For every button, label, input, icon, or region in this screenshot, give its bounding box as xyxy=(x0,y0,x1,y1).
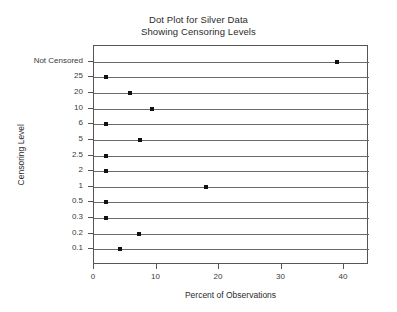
data-point xyxy=(137,232,141,236)
row-rule xyxy=(94,140,369,141)
row-rule xyxy=(94,249,369,250)
y-axis-tick xyxy=(88,139,93,140)
x-axis-tick-label: 10 xyxy=(151,272,160,281)
row-rule xyxy=(94,77,369,78)
data-point xyxy=(128,91,132,95)
x-axis-tick xyxy=(156,264,157,269)
row-rule xyxy=(94,109,369,110)
y-axis-tick-label: 2.5 xyxy=(72,151,83,159)
x-axis-title: Percent of Observations xyxy=(93,290,368,300)
dot-plot-chart: Dot Plot for Silver Data Showing Censori… xyxy=(0,0,397,312)
y-axis-title: Censoring Level xyxy=(16,124,26,185)
row-rule xyxy=(94,218,369,219)
data-point xyxy=(104,216,108,220)
chart-title-line1: Dot Plot for Silver Data xyxy=(149,14,248,25)
y-axis-tick xyxy=(88,61,93,62)
y-axis-tick-label: 0.3 xyxy=(72,213,83,221)
row-rule xyxy=(94,124,369,125)
plot-area xyxy=(93,45,368,264)
y-axis-tick-label: 1 xyxy=(79,182,83,190)
y-axis-tick xyxy=(88,155,93,156)
data-point xyxy=(104,75,108,79)
data-point xyxy=(204,185,208,189)
row-rule xyxy=(94,62,369,63)
x-axis-tick xyxy=(93,264,94,269)
row-rule xyxy=(94,234,369,235)
data-point xyxy=(118,247,122,251)
x-axis-tick-label: 30 xyxy=(276,272,285,281)
y-axis-tick-label: 10 xyxy=(74,104,83,112)
y-axis-tick-label: 5 xyxy=(79,135,83,143)
y-axis-tick-label: 0.2 xyxy=(72,229,83,237)
row-rule xyxy=(94,171,369,172)
data-point xyxy=(138,138,142,142)
x-axis-tick-label: 40 xyxy=(339,272,348,281)
chart-title-line2: Showing Censoring Levels xyxy=(0,26,397,38)
y-axis-tick-label: Not Censored xyxy=(34,57,83,65)
y-axis-tick xyxy=(88,201,93,202)
y-axis-tick xyxy=(88,92,93,93)
y-axis-tick xyxy=(88,248,93,249)
row-rule xyxy=(94,156,369,157)
y-axis-tick-label: 2 xyxy=(79,166,83,174)
x-axis-tick xyxy=(218,264,219,269)
data-point xyxy=(104,122,108,126)
y-axis-tick xyxy=(88,170,93,171)
y-axis-tick xyxy=(88,76,93,77)
row-rule xyxy=(94,202,369,203)
y-axis-tick-label: 0.5 xyxy=(72,197,83,205)
chart-title: Dot Plot for Silver Data Showing Censori… xyxy=(0,14,397,38)
x-axis-tick-label: 20 xyxy=(214,272,223,281)
data-point xyxy=(104,169,108,173)
x-axis-tick xyxy=(343,264,344,269)
y-axis-tick xyxy=(88,233,93,234)
data-point xyxy=(104,200,108,204)
y-axis-tick-label: 0.1 xyxy=(72,244,83,252)
data-point xyxy=(150,107,154,111)
x-axis-tick xyxy=(281,264,282,269)
y-axis-tick-label: 20 xyxy=(74,88,83,96)
y-axis-tick-label: 6 xyxy=(79,119,83,127)
x-axis-tick-label: 0 xyxy=(91,272,95,281)
row-rule xyxy=(94,187,369,188)
data-point xyxy=(104,154,108,158)
y-axis-tick-label: 25 xyxy=(74,72,83,80)
data-point xyxy=(335,60,339,64)
y-axis-tick xyxy=(88,108,93,109)
y-axis-tick xyxy=(88,217,93,218)
y-axis-tick xyxy=(88,186,93,187)
row-rule xyxy=(94,93,369,94)
y-axis-tick xyxy=(88,123,93,124)
